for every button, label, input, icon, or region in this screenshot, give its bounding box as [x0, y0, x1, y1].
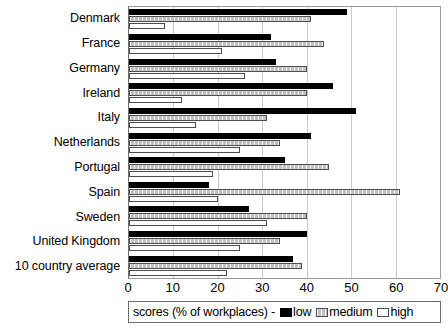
category-label: Netherlands: [0, 130, 124, 155]
bar-medium: [129, 164, 329, 170]
bar-low: [129, 206, 249, 212]
bar-high: [129, 270, 227, 276]
bars-layer: [129, 7, 440, 278]
category-label: United Kingdom: [0, 229, 124, 254]
category-label: Italy: [0, 105, 124, 130]
bar-group: [129, 56, 440, 81]
swatch-high-icon: [377, 308, 389, 317]
bar-high: [129, 245, 240, 251]
bar-high: [129, 122, 196, 128]
value-tick-label: 70: [434, 281, 448, 294]
category-label: Denmark: [0, 6, 124, 31]
bar-medium: [129, 66, 307, 72]
bar-low: [129, 59, 276, 65]
legend-entry-medium: medium: [316, 306, 372, 319]
bar-high: [129, 220, 267, 226]
bar-medium: [129, 16, 311, 22]
legend-label: high: [390, 306, 413, 319]
bar-low: [129, 256, 293, 262]
category-label: 10 country average: [0, 254, 124, 279]
bar-medium: [129, 213, 307, 219]
bar-high: [129, 73, 245, 79]
value-tick-label: 40: [300, 281, 314, 294]
swatch-low-icon: [280, 308, 292, 317]
value-tick-label: 30: [255, 281, 269, 294]
bar-medium: [129, 140, 280, 146]
legend-entries: lowmediumhigh: [275, 306, 413, 319]
bar-high: [129, 23, 165, 29]
bar-medium: [129, 189, 400, 195]
bar-low: [129, 108, 356, 114]
bar-group: [129, 81, 440, 106]
category-label: Sweden: [0, 205, 124, 230]
swatch-medium-icon: [316, 308, 328, 317]
legend-title: scores (% of workplaces) -: [133, 306, 275, 319]
category-label: Portugal: [0, 155, 124, 180]
chart-legend: scores (% of workplaces) - lowmediumhigh: [128, 301, 441, 323]
legend-label: low: [293, 306, 311, 319]
bar-low: [129, 133, 311, 139]
bar-high: [129, 196, 218, 202]
bar-group: [129, 253, 440, 278]
bar-medium: [129, 263, 302, 269]
bar-medium: [129, 238, 280, 244]
bar-high: [129, 97, 182, 103]
category-label: Germany: [0, 56, 124, 81]
bar-medium: [129, 90, 307, 96]
bar-low: [129, 9, 347, 15]
bar-group: [129, 106, 440, 131]
bar-high: [129, 48, 222, 54]
value-tick-label: 10: [165, 281, 179, 294]
bar-medium: [129, 41, 324, 47]
bar-low: [129, 83, 333, 89]
category-label: Spain: [0, 180, 124, 205]
bar-low: [129, 231, 307, 237]
bar-high: [129, 171, 213, 177]
bar-medium: [129, 115, 267, 121]
legend-label: medium: [329, 306, 372, 319]
category-label: Ireland: [0, 80, 124, 105]
legend-entry-high: high: [377, 306, 413, 319]
value-tick-label: 60: [389, 281, 403, 294]
value-axis: 010203040506070: [128, 280, 441, 300]
value-tick-label: 50: [344, 281, 358, 294]
bar-low: [129, 182, 209, 188]
value-tick-label: 20: [210, 281, 224, 294]
bar-group: [129, 179, 440, 204]
bar-group: [129, 7, 440, 32]
bar-group: [129, 32, 440, 57]
bar-group: [129, 229, 440, 254]
category-axis: DenmarkFranceGermanyIrelandItalyNetherla…: [0, 6, 124, 279]
plot-area: [128, 6, 441, 279]
bar-group: [129, 130, 440, 155]
legend-entry-low: low: [280, 306, 311, 319]
bar-high: [129, 147, 240, 153]
bar-group: [129, 204, 440, 229]
bar-low: [129, 34, 271, 40]
value-tick-label: 0: [124, 281, 131, 294]
bar-low: [129, 157, 285, 163]
category-label: France: [0, 31, 124, 56]
bar-group: [129, 155, 440, 180]
